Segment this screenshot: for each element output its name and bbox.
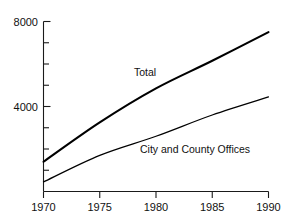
y-axis-tick-label-8000: 8000 [14, 16, 38, 28]
x-axis-tick-label-1985: 1985 [200, 201, 224, 213]
y-axis-tick-label-4000: 4000 [14, 101, 38, 113]
x-axis-tick-label-1970: 1970 [31, 201, 55, 213]
x-axis-tick-label-1990: 1990 [256, 201, 280, 213]
series-line-city-and-county-offices [44, 97, 269, 182]
x-axis-tick-label-1975: 1975 [88, 201, 112, 213]
series-annotation-city-and-county-offices: City and County Offices [140, 143, 250, 155]
x-axis-tick-label-1980: 1980 [144, 201, 168, 213]
line-chart: 8000 4000 1970 1975 1980 1985 1990 Total… [0, 0, 293, 223]
series-annotation-total: Total [134, 66, 156, 78]
chart-canvas: 8000 4000 1970 1975 1980 1985 1990 Total… [0, 0, 293, 223]
